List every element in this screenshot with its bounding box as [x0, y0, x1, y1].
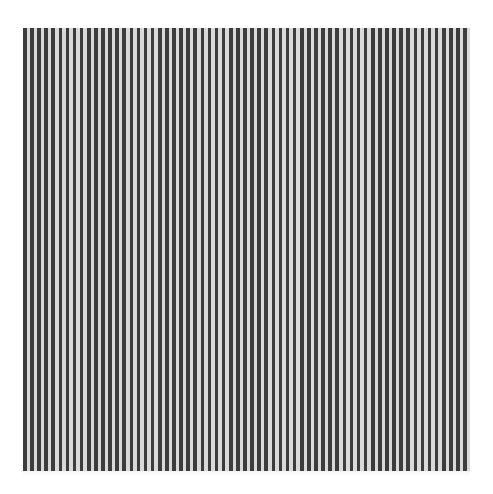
artwork-shadow [23, 471, 470, 477]
striped-artwork [23, 28, 470, 471]
